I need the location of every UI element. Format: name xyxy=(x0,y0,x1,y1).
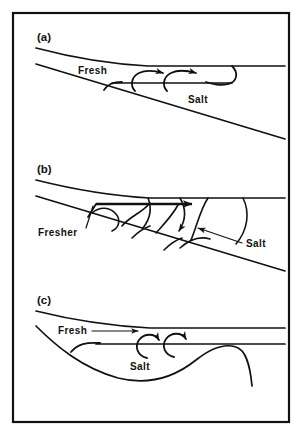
panel-a-bed-line xyxy=(36,64,285,139)
panel-b-salt-label: Salt xyxy=(246,238,266,249)
panel-b: (b) Fresher xyxy=(36,163,285,271)
panel-a-return-hook xyxy=(206,66,236,85)
panel-b-fresher-leader xyxy=(86,206,93,228)
panel-c-salt-label: Salt xyxy=(130,361,150,372)
estuary-mixing-diagram: (a) Fresh Salt (b) xyxy=(0,0,302,434)
panel-b-billow-4 xyxy=(156,205,178,233)
panel-a-salt-label: Salt xyxy=(188,94,208,105)
panel-a-fresh-label: Fresh xyxy=(78,65,107,76)
panel-a-label: (a) xyxy=(37,31,51,43)
panel-a-surface-line xyxy=(36,48,285,66)
figure-root: (a) Fresh Salt (b) xyxy=(0,0,302,434)
panel-b-billow-6 xyxy=(191,198,208,240)
panel-a: (a) Fresh Salt xyxy=(36,31,285,139)
panel-c-fresh-label: Fresh xyxy=(58,325,87,336)
panel-b-salt-leader xyxy=(198,228,242,243)
panel-a-eddy-1 xyxy=(132,71,163,91)
panel-a-eddy-2 xyxy=(164,71,196,91)
panel-c: (c) Fresh Salt xyxy=(36,294,285,386)
panel-b-billow-3 xyxy=(143,198,150,228)
panel-b-fresher-label: Fresher xyxy=(38,227,78,238)
panel-c-eddy-1 xyxy=(137,335,159,358)
panel-b-label: (b) xyxy=(37,163,52,175)
panel-c-eddy-2 xyxy=(164,334,186,357)
panel-c-label: (c) xyxy=(37,294,51,306)
panel-b-surface-line xyxy=(36,180,285,198)
